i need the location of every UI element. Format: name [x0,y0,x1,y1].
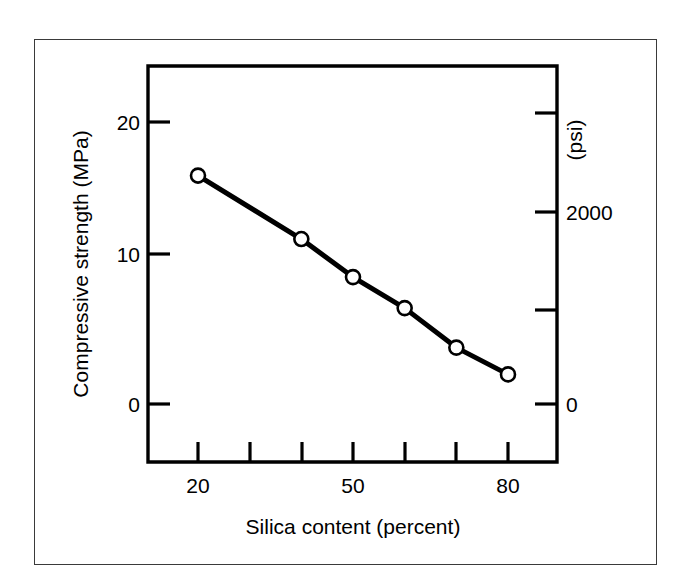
y-axis-left-labels: 20 10 0 [117,111,140,416]
x-axis-labels: 20 50 80 [186,474,519,497]
data-series-compressive-strength [191,169,515,382]
data-point-marker [191,169,205,183]
y2-ticklabel-0: 0 [566,393,578,416]
y-axis-right-labels: 2000 0 [566,201,613,416]
x-axis-title: Silica content (percent) [246,515,461,538]
data-point-marker [398,301,412,315]
data-point-marker [449,341,463,355]
y-axis-left-ticks [148,122,170,404]
data-point-marker [294,232,308,246]
plot-frame [148,66,557,462]
data-point-marker [346,270,360,284]
x-axis-ticks [198,442,508,462]
x-ticklabel-80: 80 [496,474,519,497]
y-axis-left-title: Compressive strength (MPa) [69,130,92,397]
y-ticklabel-20: 20 [117,111,140,134]
x-ticklabel-20: 20 [186,474,209,497]
y-ticklabel-0: 0 [128,393,140,416]
y-axis-right-ticks [535,113,557,404]
x-ticklabel-50: 50 [341,474,364,497]
chart-canvas: 20 10 0 Compressive strength (MPa) 2000 … [0,0,689,586]
y-ticklabel-10: 10 [117,243,140,266]
data-point-marker [501,367,515,381]
figure-page: 20 10 0 Compressive strength (MPa) 2000 … [0,0,689,586]
y2-ticklabel-2000: 2000 [566,201,613,224]
y-axis-right-title: (psi) [563,120,586,161]
